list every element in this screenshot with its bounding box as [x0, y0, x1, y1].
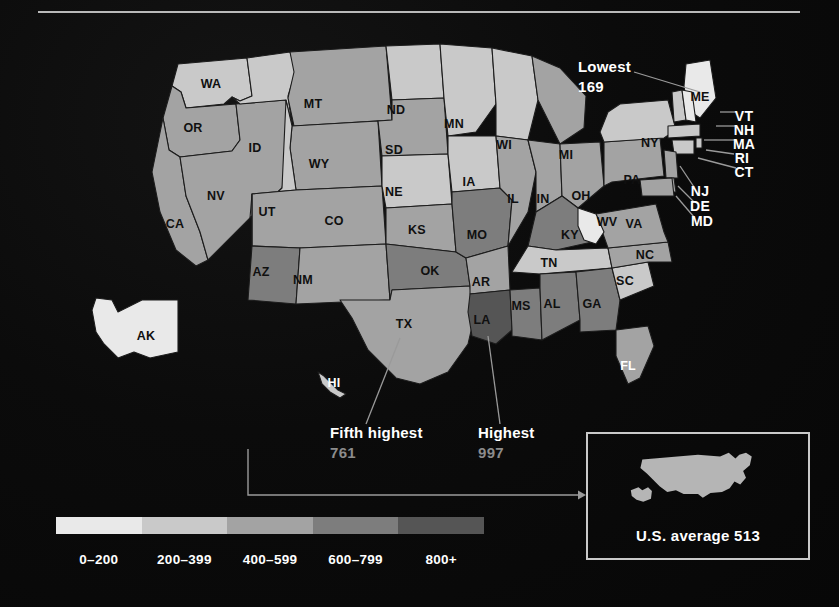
state-ms — [510, 288, 542, 340]
legend-swatch-2 — [227, 517, 313, 534]
leader-line-10 — [488, 336, 500, 424]
legend-labels: 0–200200–399400–599600–799800+ — [56, 552, 484, 572]
map-figure: WAORCANVIDUTAZMTWYCONMNDSDNEKSOKTXMNIAMO… — [0, 0, 839, 607]
state-nj — [664, 150, 678, 178]
annotation-highest-label: Highest — [478, 424, 534, 441]
legend-swatch-1 — [142, 517, 228, 534]
state-la — [468, 290, 512, 344]
state-tx — [340, 286, 474, 384]
state-ga — [576, 268, 620, 332]
annotation-highest: Highest 997 — [478, 424, 534, 461]
state-wy — [290, 121, 382, 190]
leader-line-5 — [680, 166, 694, 187]
annotation-fifth-highest-value: 761 — [330, 444, 423, 461]
legend-swatch-4 — [398, 517, 484, 534]
annotation-highest-value: 997 — [478, 444, 534, 461]
annotation-fifth-highest: Fifth highest 761 — [330, 424, 423, 461]
legend-label-1: 200–399 — [157, 552, 212, 567]
state-sc — [612, 262, 654, 300]
state-va — [596, 204, 668, 248]
state-ak — [92, 298, 178, 358]
legend-swatch-0 — [56, 517, 142, 534]
state-al — [540, 272, 580, 340]
leader-line-6 — [678, 186, 694, 202]
inset-caption: U.S. average 513 — [636, 527, 760, 544]
state-nd — [386, 44, 444, 100]
legend-label-4: 800+ — [425, 552, 457, 567]
legend-label-0: 0–200 — [79, 552, 118, 567]
annotation-lowest-label: Lowest — [578, 58, 631, 75]
leader-line-4 — [698, 158, 736, 168]
state-md — [640, 178, 674, 196]
legend-swatches — [56, 517, 484, 534]
state-mn — [440, 44, 496, 136]
state-ny — [600, 100, 676, 142]
inset-national-average: U.S. average 513 — [586, 432, 810, 560]
state-fl — [616, 326, 654, 384]
state-mt — [288, 46, 392, 126]
legend-label-3: 600–799 — [328, 552, 383, 567]
legend-label-2: 400–599 — [243, 552, 298, 567]
leader-line-3 — [706, 150, 734, 154]
state-nm — [296, 244, 390, 304]
state-ne — [382, 154, 452, 208]
state-ia — [448, 136, 500, 192]
legend: 0–200200–399400–599600–799800+ — [56, 517, 484, 572]
state-ma — [668, 124, 700, 138]
inset-map-icon — [623, 446, 773, 518]
annotation-fifth-highest-label: Fifth highest — [330, 424, 423, 441]
state-hi — [318, 372, 346, 398]
state-ri — [696, 138, 702, 148]
inset-us-silhouette — [623, 446, 773, 518]
legend-swatch-3 — [313, 517, 399, 534]
state-co — [252, 186, 386, 248]
state-wi — [492, 48, 538, 140]
state-oh — [560, 142, 604, 208]
annotation-lowest-value: 169 — [578, 78, 631, 95]
annotation-lowest: Lowest 169 — [578, 58, 631, 95]
